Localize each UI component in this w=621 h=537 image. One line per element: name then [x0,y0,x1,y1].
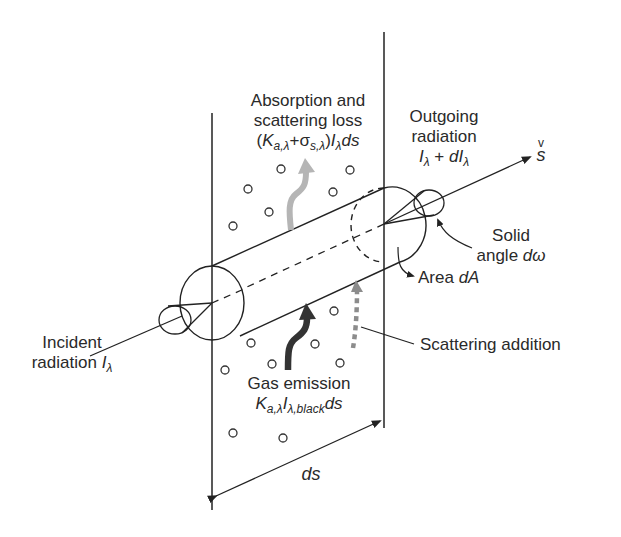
absorption-label: Absorption and scattering loss (Ka,λ+σs,… [226,91,390,151]
scattering-addition-label: Scattering addition [420,335,561,355]
direction-s-label: v s [534,137,548,161]
gas-emission-label: Gas emission Ka,λIλ,blackds [226,374,372,414]
scattering-addition-leader [361,327,414,344]
area-label: Area dA [418,268,479,288]
gas-emission-arrow [288,303,316,370]
diagram-canvas [0,0,621,537]
absorption-label-line2: scattering loss [226,111,390,131]
absorption-label-line1: Absorption and [226,91,390,111]
gas-emission-formula: Ka,λIλ,blackds [226,394,372,414]
solid-angle-label: Solid angle dω [466,226,556,266]
thickness-dimension-arrow [216,421,380,496]
absorption-loss-arrow [290,158,315,230]
absorption-formula: (Ka,λ+σs,λ)Iλds [226,131,390,151]
outgoing-label: Outgoing radiation Iλ + dIλ [392,107,496,167]
outgoing-formula: Iλ + dIλ [392,147,496,167]
thickness-label: ds [296,464,326,484]
scattering-addition-arrow [351,280,363,348]
incident-label: Incident radiation Iλ [22,333,122,373]
